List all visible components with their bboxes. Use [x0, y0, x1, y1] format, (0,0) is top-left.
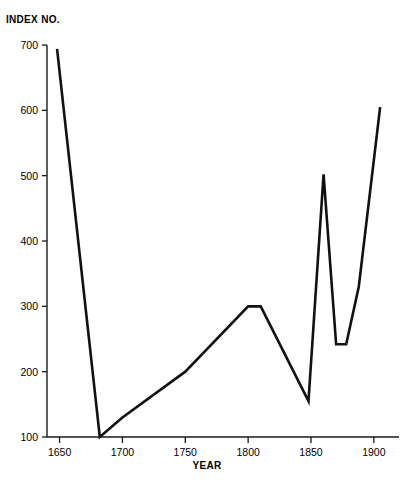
data-series-line	[57, 49, 380, 437]
line-chart: INDEX NO. YEAR 100200300400500600700 165…	[0, 0, 404, 487]
plot-area	[0, 0, 404, 487]
axes	[47, 45, 399, 437]
y-axis-ticks	[42, 45, 47, 437]
x-axis-ticks	[60, 437, 374, 443]
